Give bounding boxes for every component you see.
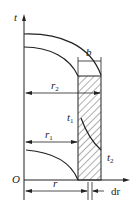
r-axis-arrow-icon bbox=[123, 178, 130, 182]
r1-label: r1 bbox=[45, 129, 53, 142]
dr-label: dr bbox=[111, 186, 120, 197]
diagram: t b r2 t1 r1 t2 O r dr bbox=[0, 0, 135, 212]
hatched-ring-element bbox=[78, 76, 101, 180]
b-label: b bbox=[86, 47, 92, 58]
r-label: r bbox=[53, 178, 57, 189]
diagram-graphics bbox=[0, 0, 135, 212]
r2-label: r2 bbox=[51, 80, 59, 93]
t1-label: t1 bbox=[67, 112, 74, 125]
t2-label: t2 bbox=[107, 152, 114, 165]
inner-profile-curve bbox=[24, 47, 78, 76]
temperature-curve-inner bbox=[26, 150, 78, 180]
origin-label: O bbox=[12, 174, 20, 185]
t-axis-arrow-icon bbox=[22, 14, 26, 21]
t-axis-label: t bbox=[14, 12, 17, 23]
